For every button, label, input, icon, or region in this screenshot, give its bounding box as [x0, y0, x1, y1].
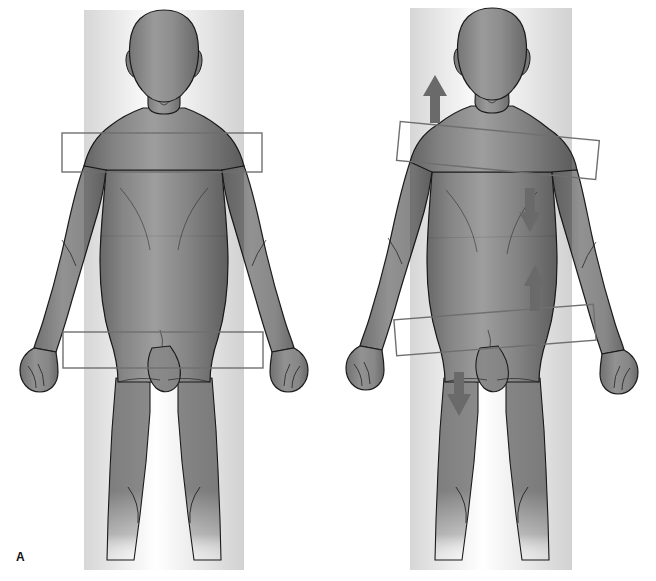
legs-group-a — [80, 378, 260, 565]
legs-group-b — [435, 378, 549, 560]
panel-b: B — [328, 0, 656, 581]
panel-b-illustration — [328, 0, 656, 581]
right-leg-b — [506, 378, 549, 560]
head-a — [130, 10, 199, 102]
left-arm-a — [34, 166, 106, 352]
left-hand-a — [20, 348, 58, 392]
right-hand-a — [270, 348, 308, 392]
panel-a-illustration — [0, 0, 328, 581]
body-figure-a — [20, 10, 308, 570]
right-arm-a — [222, 166, 294, 352]
right-hand-b — [600, 350, 638, 394]
left-hand-b — [346, 346, 384, 390]
figure-root: A — [0, 0, 656, 581]
head-b — [458, 8, 527, 100]
panel-label-a: A — [16, 551, 25, 563]
right-arm-b — [552, 170, 624, 354]
shoulder-elevation-arrow-b — [423, 75, 447, 123]
left-arm-b — [360, 162, 432, 350]
body-figure-b — [346, 8, 638, 570]
panel-a: A — [0, 0, 328, 581]
shoulders-a — [84, 108, 244, 178]
